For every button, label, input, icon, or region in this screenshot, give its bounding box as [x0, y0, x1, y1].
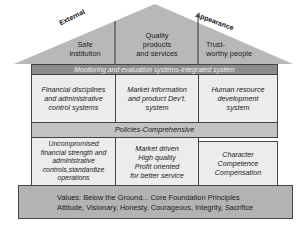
- box-character-competence: Character Competence Compensation: [198, 141, 278, 186]
- box-financial-disciplines: Financial disciplines and administrative…: [31, 74, 116, 123]
- box-market-information: Market information and product Dev't. sy…: [115, 74, 199, 123]
- foundation-line-1: Values: Below the Ground... Core Foundat…: [57, 193, 292, 203]
- roof-cell-trustworthy-people: Trust- worthy people: [200, 40, 260, 58]
- policies-band: Policies-Comprehensive: [31, 122, 278, 138]
- roof-cell-safe-institution: Safe institution: [55, 40, 115, 58]
- box-uncompromised-financial: Uncompromised financial strength and adm…: [31, 137, 116, 186]
- roof-cell-quality-products: Quality products and services: [116, 31, 198, 58]
- foundation-line-2: Attitude, Visionary, Honesty, Courageous…: [57, 203, 292, 213]
- foundation-values: Values: Below the Ground... Core Foundat…: [18, 185, 293, 219]
- box-human-resource: Human resource development system: [198, 74, 278, 123]
- box-market-driven: Market driven High quality Profit orient…: [115, 137, 199, 186]
